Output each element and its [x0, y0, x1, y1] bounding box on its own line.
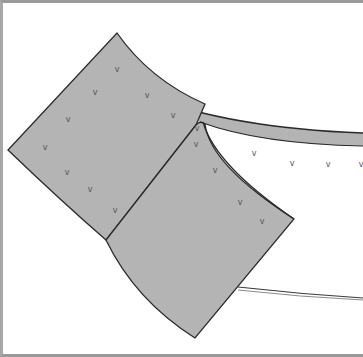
- vegetation-mark-icon: v: [290, 159, 295, 168]
- parcel-map: vvvvvvvvvvvvvvvvvv: [0, 0, 363, 357]
- vegetation-mark-icon: v: [326, 160, 331, 169]
- vegetation-mark-icon: v: [195, 124, 200, 133]
- vegetation-mark-icon: v: [88, 185, 93, 194]
- vegetation-mark-icon: v: [145, 91, 150, 100]
- vegetation-mark-icon: v: [260, 217, 265, 226]
- vegetation-mark-icon: v: [171, 111, 176, 120]
- vegetation-mark-icon: v: [66, 115, 71, 124]
- vegetation-mark-icon: v: [93, 88, 98, 97]
- vegetation-mark-icon: v: [194, 140, 199, 149]
- vegetation-mark-icon: v: [359, 160, 363, 169]
- vegetation-mark-icon: v: [213, 166, 218, 175]
- vegetation-mark-icon: v: [43, 143, 48, 152]
- vegetation-mark-icon: v: [113, 206, 118, 215]
- lower-road-edge: [238, 290, 363, 300]
- vegetation-mark-icon: v: [238, 198, 243, 207]
- vegetation-mark-icon: v: [115, 65, 120, 74]
- vegetation-mark-icon: v: [65, 168, 70, 177]
- vegetation-mark-icon: v: [252, 149, 257, 158]
